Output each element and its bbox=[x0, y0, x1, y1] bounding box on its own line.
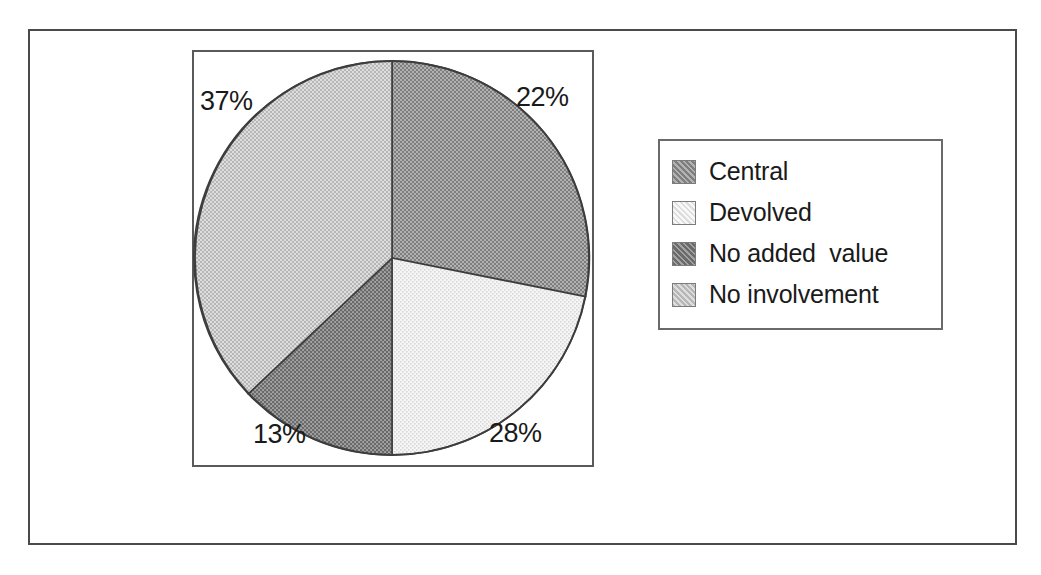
legend-label-no-added-value: No added value bbox=[709, 241, 888, 266]
legend-label-no-involvement: No involvement bbox=[709, 282, 879, 307]
legend-item-central[interactable]: Central bbox=[672, 151, 941, 192]
legend-item-devolved[interactable]: Devolved bbox=[672, 192, 941, 233]
legend-swatch-no-added-value-icon bbox=[672, 242, 696, 266]
legend-label-central: Central bbox=[709, 159, 788, 184]
legend-item-no-added-value[interactable]: No added value bbox=[672, 233, 941, 274]
legend-label-devolved: Devolved bbox=[709, 200, 812, 225]
pie-label-central: 22% bbox=[516, 82, 569, 113]
legend-swatch-no-involvement-icon bbox=[672, 283, 696, 307]
pie-chart-figure: 37% 22% 13% 28% Central Devolved No adde… bbox=[0, 0, 1041, 575]
legend-swatch-devolved-icon bbox=[672, 201, 696, 225]
pie-label-no-involvement: 37% bbox=[200, 86, 253, 117]
chart-legend: Central Devolved No added value No invol… bbox=[658, 139, 943, 330]
legend-swatch-central-icon bbox=[672, 160, 696, 184]
pie-label-no-added-value: 13% bbox=[253, 419, 306, 450]
legend-item-no-involvement[interactable]: No involvement bbox=[672, 274, 941, 315]
pie-label-devolved: 28% bbox=[489, 418, 542, 449]
